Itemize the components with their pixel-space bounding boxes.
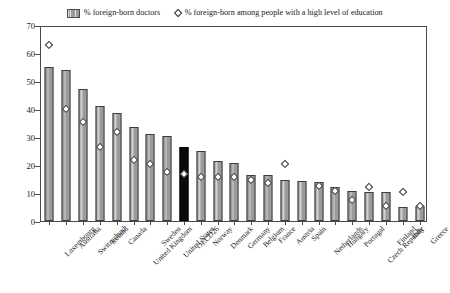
bar-group (260, 27, 277, 221)
y-tick-label: 30 (26, 134, 35, 143)
bar-united-states (163, 136, 172, 221)
bar-ireland (95, 106, 104, 221)
bar-swatch-icon (67, 9, 80, 18)
bar-group (192, 27, 209, 221)
bar-sweden (146, 134, 155, 221)
bar-group (394, 27, 411, 221)
bar-group (125, 27, 142, 221)
bar-czech-republic (365, 192, 374, 221)
bar-spain (297, 181, 306, 221)
bar-australia (62, 70, 71, 221)
bar-group (108, 27, 125, 221)
diamond-marker-italy (399, 188, 407, 196)
bar-group (344, 27, 361, 221)
chart-container: % foreign-born doctors % foreign-born am… (0, 0, 450, 293)
bar-italy (398, 207, 407, 221)
legend-label-diamonds: % foreign-born among people with a high … (185, 9, 383, 17)
y-tick-label: 50 (26, 78, 35, 87)
bar-group (293, 27, 310, 221)
legend-label-bars: % foreign-born doctors (84, 9, 160, 17)
bar-group (411, 27, 428, 221)
y-tick-label: 20 (26, 162, 35, 171)
diamond-marker-czech-republic (365, 183, 373, 191)
legend-entry-bars: % foreign-born doctors (67, 9, 160, 18)
bar-denmark (213, 161, 222, 221)
x-axis-labels: LuxembourgAustraliaSwitzerlandIrelandCan… (40, 222, 427, 293)
bar-group (159, 27, 176, 221)
diamond-marker-austria (281, 160, 289, 168)
bar-group (277, 27, 294, 221)
bar-group (226, 27, 243, 221)
x-label-ireland: Ireland (109, 225, 130, 246)
diamond-marker-icon (174, 9, 181, 16)
bar-group (327, 27, 344, 221)
y-tick-label: 40 (26, 106, 35, 115)
bar-luxembourg (45, 67, 54, 221)
bar-group (361, 27, 378, 221)
bar-austria (280, 180, 289, 221)
x-label-canada: Canada (126, 225, 147, 246)
bar-switzerland (79, 89, 88, 221)
bar-group (75, 27, 92, 221)
x-label-greece: Greece (429, 225, 450, 246)
bar-group (209, 27, 226, 221)
bar-norway (196, 151, 205, 221)
bar-group (142, 27, 159, 221)
bar-group (41, 27, 58, 221)
bar-oecd26 (180, 147, 189, 221)
y-tick-label: 70 (26, 22, 35, 31)
bar-group (91, 27, 108, 221)
bar-group (243, 27, 260, 221)
y-tick-label: 10 (26, 190, 35, 199)
y-tick-label: 60 (26, 50, 35, 59)
bar-group (176, 27, 193, 221)
bar-group (310, 27, 327, 221)
diamond-marker-luxembourg (45, 41, 53, 49)
plot-area (40, 26, 427, 222)
bar-germany (230, 163, 239, 221)
bar-group (378, 27, 395, 221)
legend-entry-diamonds: % foreign-born among people with a high … (174, 9, 383, 17)
chart-legend: % foreign-born doctors % foreign-born am… (0, 4, 450, 22)
bars-layer (41, 27, 426, 221)
y-axis: 010203040506070 (0, 26, 40, 222)
bar-group (58, 27, 75, 221)
bar-united-kingdom (129, 127, 138, 221)
